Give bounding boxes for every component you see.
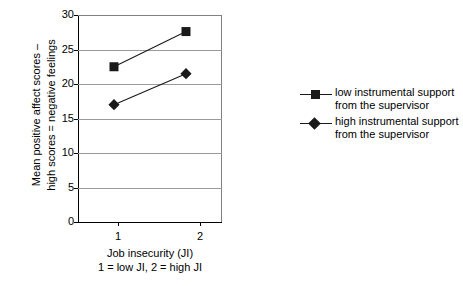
legend-label-low-support-line1: low instrumental support [335, 86, 454, 99]
y-axis-title-line1: Mean positive affect scores – [29, 8, 44, 222]
legend-item-low-support: low instrumental support from the superv… [300, 86, 460, 112]
x-axis-tick-labels: 1 2 [78, 230, 222, 244]
legend-label-high-support: high instrumental support from the super… [332, 115, 459, 141]
y-axis-title-line2: high scores = negative feelings [44, 8, 59, 222]
plot-area [78, 15, 222, 222]
legend-label-low-support-line2: from the supervisor [335, 99, 454, 112]
series-line-2 [114, 74, 186, 105]
x-tick-mark-2 [200, 222, 201, 226]
diamond-marker-icon [300, 116, 332, 132]
x-tick-label-2: 2 [180, 230, 220, 243]
legend-label-low-support: low instrumental support from the superv… [332, 86, 454, 112]
data-point-s1-x2 [182, 27, 191, 36]
data-series-layer [78, 15, 222, 222]
chart-legend: low instrumental support from the superv… [300, 86, 460, 144]
x-axis-title-note: 1 = low JI, 2 = high JI [40, 260, 260, 274]
series-line-1 [114, 32, 186, 67]
x-tick-mark-1 [118, 222, 119, 226]
x-axis-title: Job insecurity (JI) 1 = low JI, 2 = high… [40, 246, 260, 274]
square-marker-icon [300, 87, 332, 103]
legend-label-high-support-line2: from the supervisor [335, 128, 459, 141]
y-axis-title: Mean positive affect scores – high score… [29, 8, 59, 222]
x-tick-label-1: 1 [98, 230, 138, 243]
data-point-s2-x1 [108, 99, 119, 110]
data-point-s1-x1 [110, 62, 119, 71]
chart-figure: 0 5 10 15 20 25 30 1 2 [0, 0, 463, 286]
legend-label-high-support-line1: high instrumental support [335, 115, 459, 128]
x-axis-title-main: Job insecurity (JI) [40, 246, 260, 260]
x-axis-tick-marks [78, 222, 222, 227]
data-point-s2-x2 [180, 68, 191, 79]
legend-item-high-support: high instrumental support from the super… [300, 115, 460, 141]
